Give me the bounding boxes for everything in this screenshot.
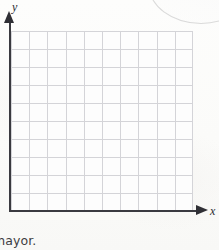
x-axis-line [9,210,202,212]
y-axis-line [9,20,11,212]
grid-right-edge [192,31,193,211]
coordinate-grid [11,31,193,211]
figure-page: y x mayor. [0,0,219,250]
x-axis-label: x [210,205,215,217]
x-axis-arrowhead-icon [196,205,208,215]
clipped-body-text: mayor. [0,233,36,248]
y-axis-label: y [12,1,17,13]
grid-lines [11,31,193,211]
grid-top-edge [11,31,193,32]
